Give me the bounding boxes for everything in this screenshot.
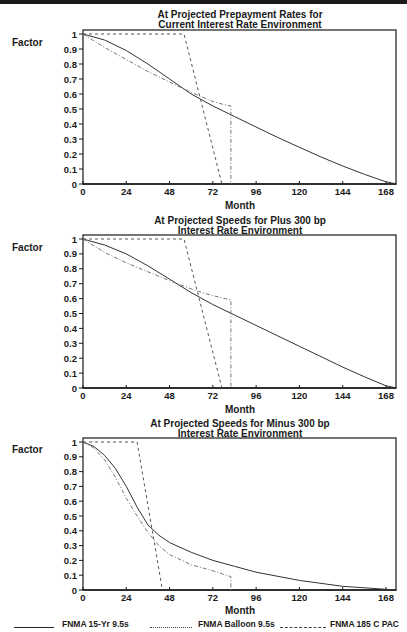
x-tick-label: 168: [378, 592, 394, 603]
y-tick-label: 0.6: [64, 496, 77, 507]
series-line: [83, 442, 162, 590]
y-tick-label: 0.2: [64, 555, 77, 566]
chart-3-plot: 00.10.20.30.40.50.60.70.80.9102448729612…: [0, 0, 407, 607]
x-tick-label: 24: [121, 592, 132, 603]
legend-solid-line-icon: [14, 627, 54, 628]
legend-dashdot-line-icon: [150, 627, 192, 628]
legend-dashed-line-icon: [280, 627, 326, 628]
y-tick-label: 0.9: [64, 451, 77, 462]
y-tick-label: 0.7: [64, 481, 77, 492]
y-tick-label: 0.4: [64, 525, 78, 536]
x-tick-label: 72: [208, 592, 219, 603]
x-tick-label: 96: [251, 592, 262, 603]
legend: FNMA 15-Yr 9.5s FNMA Balloon 9.5s FNMA 1…: [0, 615, 407, 631]
series-line: [83, 442, 397, 590]
series-line: [83, 442, 231, 590]
y-tick-label: 0.1: [64, 570, 78, 581]
legend-label-15yr: FNMA 15-Yr 9.5s: [62, 619, 129, 629]
x-tick-label: 0: [80, 592, 85, 603]
legend-label-pac: FNMA 185 C PAC: [330, 619, 399, 629]
x-tick-label: 120: [291, 592, 307, 603]
y-tick-label: 0: [72, 585, 77, 596]
y-tick-label: 0.5: [64, 511, 78, 522]
y-tick-label: 0.3: [64, 540, 77, 551]
y-tick-label: 1: [72, 437, 78, 448]
x-tick-label: 144: [335, 592, 352, 603]
x-tick-label: 48: [164, 592, 175, 603]
legend-label-balloon: FNMA Balloon 9.5s: [198, 619, 275, 629]
y-tick-label: 0.8: [64, 466, 77, 477]
